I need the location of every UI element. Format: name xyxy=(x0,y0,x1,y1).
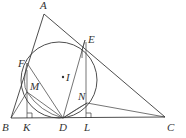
label-l: L xyxy=(83,121,90,133)
segment-md xyxy=(27,92,63,118)
side-ab xyxy=(11,14,44,118)
right-angle-k xyxy=(27,113,32,118)
label-b: B xyxy=(2,121,9,133)
incenter-dot xyxy=(62,76,64,78)
label-c: C xyxy=(167,121,175,133)
label-d: D xyxy=(58,121,67,133)
label-a: A xyxy=(39,0,47,11)
segment-nc xyxy=(87,103,165,117)
label-m: M xyxy=(29,80,40,92)
label-e: E xyxy=(87,33,95,45)
side-bc xyxy=(11,117,165,118)
geometry-diagram: A B C D E F I K L M N xyxy=(0,0,186,138)
label-i: I xyxy=(65,71,71,83)
side-ac xyxy=(44,14,165,117)
segment-bm xyxy=(11,92,27,118)
label-n: N xyxy=(77,90,86,102)
label-f: F xyxy=(17,57,25,69)
label-k: K xyxy=(22,121,31,133)
